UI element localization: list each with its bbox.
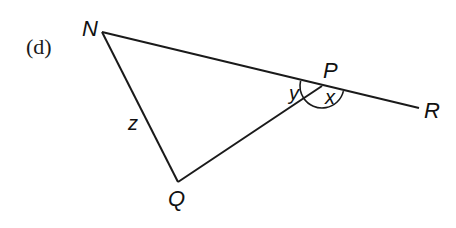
angle-label-y: y: [287, 82, 300, 104]
line-NR: [102, 32, 419, 108]
angle-label-x: x: [324, 86, 336, 108]
vertex-label-Q: Q: [168, 186, 185, 211]
triangle-diagram: (d) N P R Q y x z: [0, 0, 456, 228]
angle-arc-y: [300, 81, 304, 98]
vertex-label-P: P: [323, 58, 338, 83]
side-QP: [178, 86, 322, 182]
side-NQ: [102, 32, 178, 182]
angle-label-z: z: [127, 112, 138, 134]
vertex-label-R: R: [424, 98, 440, 123]
diagram-canvas: N P R Q y x z: [0, 0, 456, 228]
vertex-label-N: N: [82, 16, 98, 41]
part-label: (d): [26, 36, 52, 58]
